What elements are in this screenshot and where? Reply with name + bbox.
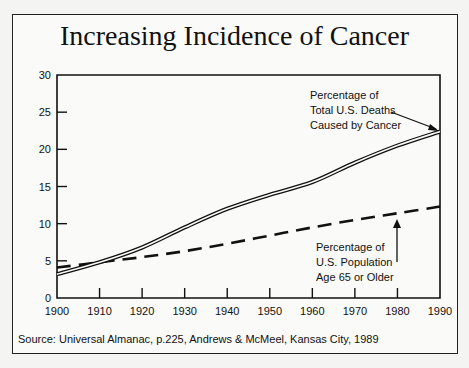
x-tick-label: 1990 [428, 305, 452, 317]
annotation-cancer-line3: Caused by Cancer [310, 118, 401, 133]
x-tick-label: 1910 [87, 305, 111, 317]
annotation-cancer: Percentage of Total U.S. Deaths Caused b… [310, 88, 401, 133]
x-tick-label: 1930 [172, 305, 196, 317]
annotation-cancer-line2: Total U.S. Deaths [310, 103, 401, 118]
x-tick-label: 1960 [300, 305, 324, 317]
y-tick-label: 25 [39, 106, 51, 118]
y-tick-label: 10 [39, 218, 51, 230]
source-note: Source: Universal Almanac, p.225, Andrew… [18, 333, 379, 345]
y-tick-label: 15 [39, 181, 51, 193]
annotation-age-line3: Age 65 or Older [316, 270, 394, 285]
annotation-age-line2: U.S. Population [316, 255, 394, 270]
y-tick-label: 20 [39, 143, 51, 155]
x-tick-label: 1920 [130, 305, 154, 317]
y-tick-label: 5 [45, 255, 51, 267]
x-tick-label: 1900 [45, 305, 69, 317]
x-tick-label: 1940 [215, 305, 239, 317]
annotation-cancer-arrowhead [428, 124, 439, 131]
plot-area: 0510152025301900191019201930194019501960… [0, 0, 469, 368]
x-tick-label: 1980 [385, 305, 409, 317]
annotation-age-arrowhead [393, 219, 401, 228]
x-tick-label: 1970 [343, 305, 367, 317]
annotation-cancer-line1: Percentage of [310, 88, 401, 103]
annotation-age: Percentage of U.S. Population Age 65 or … [316, 240, 394, 285]
y-tick-label: 0 [45, 292, 51, 304]
x-tick-label: 1950 [258, 305, 282, 317]
annotation-age-line1: Percentage of [316, 240, 394, 255]
y-tick-label: 30 [39, 69, 51, 81]
